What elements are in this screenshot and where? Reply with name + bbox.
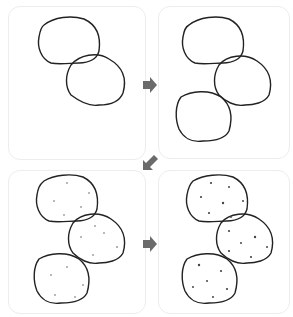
step-2-illustration <box>159 7 289 158</box>
step-3-illustration <box>9 171 145 313</box>
arrow-right-icon <box>142 236 158 252</box>
step-4-panel <box>158 170 290 314</box>
blob-shape <box>67 55 125 106</box>
blob-shape <box>182 254 237 304</box>
blob-shape <box>39 17 100 64</box>
step-3-panel <box>8 170 146 314</box>
blob-shape <box>176 92 231 142</box>
step-1-panel <box>8 6 146 160</box>
step-1-illustration <box>9 7 145 159</box>
step-2-panel <box>158 6 290 159</box>
blob-shape <box>34 254 89 304</box>
arrow-right-icon <box>142 77 158 93</box>
arrow-down-left-icon <box>142 155 158 171</box>
speckles <box>192 182 268 298</box>
speckles <box>50 182 118 298</box>
step-4-illustration <box>159 171 289 313</box>
